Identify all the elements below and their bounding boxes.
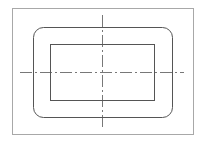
technical-drawing-canvas bbox=[0, 0, 206, 142]
drawing-background bbox=[0, 0, 206, 142]
